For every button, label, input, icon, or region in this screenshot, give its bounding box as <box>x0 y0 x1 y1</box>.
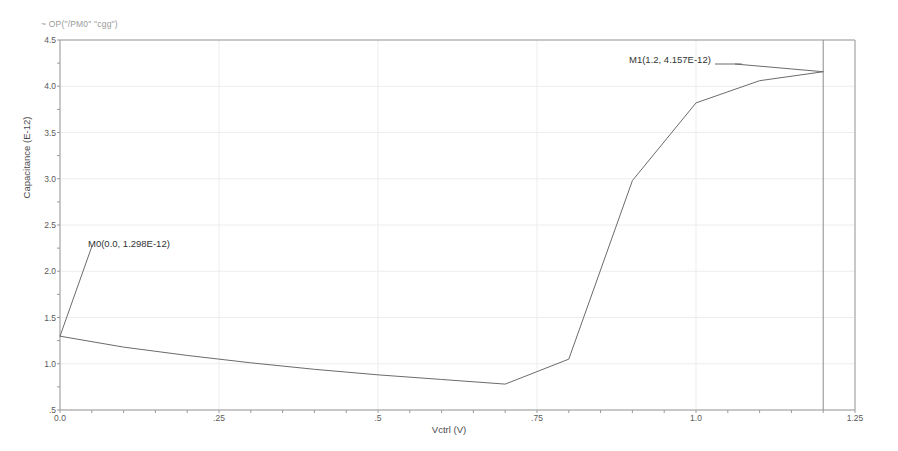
data-trace-cgg[interactable] <box>60 72 823 384</box>
x-tick-label: .75 <box>531 413 543 423</box>
x-tick-label: 0.0 <box>54 413 66 423</box>
capacitance-vs-vctrl-chart: ~ OP("/PM0" "cgg") Capacitance (E-12) Vc… <box>0 0 898 451</box>
y-tick-label: 1.5 <box>26 313 56 323</box>
y-tick-label: 2.0 <box>26 266 56 276</box>
x-axis-title: Vctrl (V) <box>0 424 898 435</box>
y-tick-label: 1.0 <box>26 359 56 369</box>
x-tick-label: .25 <box>213 413 225 423</box>
x-tick-label: .5 <box>374 413 381 423</box>
x-tick-label: 1.0 <box>690 413 702 423</box>
y-tick-label: 3.0 <box>26 174 56 184</box>
marker-m1-leader <box>735 64 823 72</box>
y-tick-label: 4.5 <box>26 35 56 45</box>
x-tick-label: 1.25 <box>847 413 864 423</box>
marker-m1-label: M1(1.2, 4.157E-12) <box>629 54 711 65</box>
y-tick-label: .5 <box>26 405 56 415</box>
y-axis-tick-labels: 4.54.03.53.02.52.01.51.0.5 <box>24 0 56 451</box>
marker-m0-label: M0(0.0, 1.298E-12) <box>88 238 170 249</box>
y-tick-label: 2.5 <box>26 220 56 230</box>
y-tick-label: 4.0 <box>26 81 56 91</box>
marker-m0-leader <box>60 246 92 336</box>
plot-area <box>0 0 898 451</box>
y-tick-label: 3.5 <box>26 128 56 138</box>
